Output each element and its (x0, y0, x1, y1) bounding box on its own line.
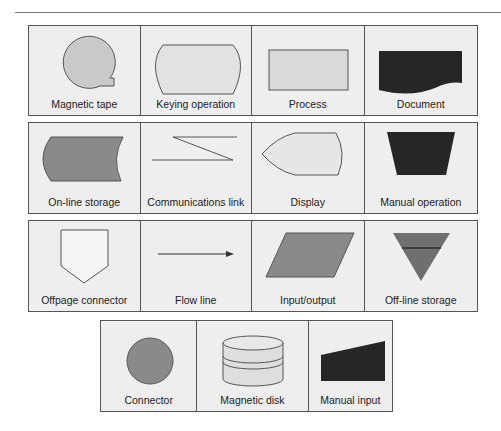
symbol-label: On-line storage (29, 196, 140, 208)
symbol-label: Connector (101, 394, 196, 406)
cell-keying-operation: Keying operation (141, 26, 253, 115)
cell-manual-operation: Manual operation (365, 123, 478, 213)
cell-magnetic-tape: Magnetic tape (29, 26, 141, 115)
symbol-label: Magnetic disk (197, 394, 307, 406)
cell-document: Document (365, 26, 478, 115)
cell-display: Display (252, 123, 365, 213)
symbol-label: Off-line storage (365, 294, 478, 306)
symbol-label: Magnetic tape (29, 98, 140, 110)
symbol-row-3: Offpage connector Flow line Input/output… (28, 220, 478, 312)
cell-magnetic-disk: Magnetic disk (197, 321, 308, 411)
symbol-label: Communications link (141, 196, 252, 208)
symbol-label: Input/output (252, 294, 364, 306)
symbol-label: Display (252, 196, 364, 208)
symbol-row-4: Connector Magnetic disk Manual input (100, 320, 393, 412)
symbol-label: Flow line (141, 294, 252, 306)
cell-connector: Connector (101, 321, 197, 411)
symbol-row-1: Magnetic tape Keying operation Process D… (28, 25, 478, 116)
cell-input-output: Input/output (252, 221, 365, 311)
cell-process: Process (252, 26, 365, 115)
symbol-label: Manual input (309, 394, 392, 406)
symbol-label: Keying operation (141, 98, 252, 110)
cell-online-storage: On-line storage (29, 123, 141, 213)
cell-flow-line: Flow line (141, 221, 253, 311)
symbol-row-2: On-line storage Communications link Disp… (28, 122, 478, 214)
cell-offpage-connector: Offpage connector (29, 221, 141, 311)
cell-offline-storage: Off-line storage (365, 221, 478, 311)
symbol-label: Offpage connector (29, 294, 140, 306)
cell-communications-link: Communications link (141, 123, 253, 213)
top-rule (15, 12, 501, 13)
symbol-label: Document (365, 98, 478, 110)
symbol-label: Process (252, 98, 364, 110)
cell-manual-input: Manual input (309, 321, 392, 411)
symbol-label: Manual operation (365, 196, 478, 208)
